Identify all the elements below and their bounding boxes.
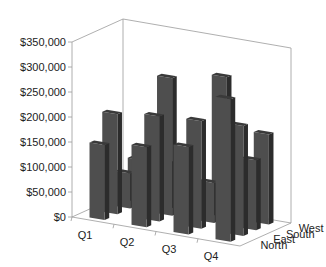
3d-column-chart: $0$50,000$100,000$150,000$200,000$250,00…: [0, 0, 326, 267]
x-tick-label: Q1: [78, 229, 93, 241]
chart-canvas: $0$50,000$100,000$150,000$200,000$250,00…: [0, 0, 326, 267]
y-tick-label: $100,000: [20, 161, 66, 173]
y-tick-label: $350,000: [20, 36, 66, 48]
depth-label: West: [299, 222, 324, 234]
y-tick-label: $0: [54, 211, 66, 223]
bar-north-q1: [90, 140, 110, 220]
y-tick-label: $200,000: [20, 111, 66, 123]
y-tick-label: $150,000: [20, 136, 66, 148]
x-tick-label: Q3: [162, 243, 177, 255]
y-tick-label: $50,000: [26, 186, 66, 198]
x-tick-label: Q4: [204, 250, 219, 262]
bar-north-q4: [216, 95, 236, 242]
bar-north-q2: [132, 143, 152, 228]
bar-north-q3: [174, 142, 194, 234]
y-tick-label: $300,000: [20, 61, 66, 73]
x-tick-label: Q2: [120, 236, 135, 248]
y-tick-label: $250,000: [20, 86, 66, 98]
